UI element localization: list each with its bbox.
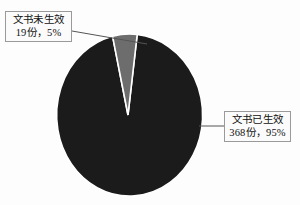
callout-minor-label: 文书未生效 [10, 14, 67, 27]
callout-minor-value: 19份，5% [10, 27, 67, 40]
callout-major-slice: 文书已生效 368份，95% [224, 111, 291, 142]
callout-major-value: 368份，95% [229, 127, 286, 140]
pie-chart-figure: 文书未生效 19份，5% 文书已生效 368份，95% [0, 0, 300, 205]
callout-major-label: 文书已生效 [229, 114, 286, 127]
callout-minor-slice: 文书未生效 19份，5% [5, 11, 72, 42]
